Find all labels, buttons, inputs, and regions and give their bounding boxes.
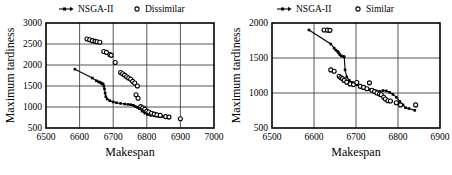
legend-label-nsga-ii: NSGA-II — [296, 4, 331, 14]
left-chart-svg: 6500660067006800690070005001000150020002… — [0, 0, 226, 175]
x-tick-label: 6500 — [37, 132, 56, 142]
legend-marker-similar — [356, 7, 360, 11]
data-point — [158, 113, 162, 117]
data-point — [123, 103, 126, 106]
data-point — [404, 106, 407, 109]
data-point — [113, 60, 117, 64]
y-tick-label: 2000 — [23, 60, 42, 70]
x-tick-label: 6500 — [263, 132, 282, 142]
y-axis-title: Maximum tardiness — [3, 27, 17, 123]
y-tick-label: 500 — [254, 123, 269, 133]
data-point — [109, 53, 113, 57]
data-point — [345, 76, 348, 79]
chart-panel-left: 6500660067006800690070005001000150020002… — [0, 0, 226, 175]
x-axis-title: Makespan — [105, 145, 154, 159]
y-tick-label: 1000 — [249, 88, 268, 98]
data-point — [167, 115, 171, 119]
y-tick-label: 1500 — [249, 53, 268, 63]
data-point — [392, 93, 395, 96]
x-tick-label: 6900 — [171, 132, 190, 142]
data-point — [119, 102, 122, 105]
x-tick-label: 6700 — [347, 132, 366, 142]
data-point — [178, 117, 182, 121]
data-point — [98, 40, 102, 44]
y-tick-label: 2500 — [23, 39, 42, 49]
legend-marker-nsga-ii — [281, 8, 284, 11]
data-point — [104, 92, 107, 95]
legend-arrow-icon — [70, 7, 74, 12]
legend-marker-nsga-ii — [63, 8, 66, 11]
series-line-nsga-ii — [309, 30, 415, 110]
x-tick-label: 6900 — [431, 132, 450, 142]
legend-label-similar: Similar — [366, 4, 395, 14]
data-point — [91, 77, 94, 80]
data-point — [344, 69, 347, 72]
data-point — [74, 68, 77, 71]
data-point — [394, 101, 398, 105]
plot-frame — [46, 23, 214, 128]
data-point — [135, 84, 139, 88]
y-tick-label: 1500 — [23, 81, 42, 91]
data-point — [385, 90, 388, 93]
data-point — [109, 99, 112, 102]
data-point — [414, 109, 417, 112]
data-point — [330, 43, 333, 46]
x-axis-title: Makespan — [331, 145, 380, 159]
legend-label-nsga-ii: NSGA-II — [78, 4, 113, 14]
data-point — [127, 103, 130, 106]
data-point — [367, 81, 371, 85]
y-tick-label: 1000 — [23, 102, 42, 112]
data-point — [103, 88, 106, 91]
data-point — [106, 98, 109, 101]
x-tick-label: 6600 — [70, 132, 89, 142]
data-point — [129, 103, 132, 106]
data-point — [136, 96, 140, 100]
data-point — [355, 81, 359, 85]
data-point — [308, 29, 311, 32]
figure-container: 6500660067006800690070005001000150020002… — [0, 0, 452, 175]
x-tick-label: 6600 — [305, 132, 324, 142]
data-point — [414, 103, 418, 107]
data-point — [115, 102, 118, 105]
chart-panel-right: 65006600670068006900500100015002000Makes… — [226, 0, 452, 175]
data-point — [388, 91, 391, 94]
data-point — [328, 28, 332, 32]
data-point — [102, 85, 105, 88]
data-point — [343, 55, 346, 58]
y-tick-label: 3000 — [23, 18, 42, 28]
data-point — [399, 103, 403, 107]
x-tick-label: 6800 — [137, 132, 156, 142]
data-point — [365, 87, 369, 91]
x-tick-label: 6700 — [104, 132, 123, 142]
series-line-nsga-ii — [75, 69, 170, 117]
x-tick-label: 7000 — [205, 132, 224, 142]
data-point — [112, 101, 115, 104]
legend-label-dissimilar: Dissimilar — [145, 4, 185, 14]
legend-marker-dissimilar — [135, 7, 139, 11]
data-point — [395, 96, 398, 99]
y-tick-label: 500 — [28, 123, 43, 133]
y-tick-label: 2000 — [249, 18, 268, 28]
y-axis-title: Maximum tardiness — [229, 27, 243, 123]
data-point — [382, 89, 385, 92]
legend-arrow-icon — [288, 7, 292, 12]
data-point — [105, 95, 108, 98]
data-point — [332, 69, 336, 73]
right-chart-svg: 65006600670068006900500100015002000Makes… — [226, 0, 452, 175]
x-tick-label: 6800 — [389, 132, 408, 142]
data-point — [408, 107, 411, 110]
data-point — [388, 99, 392, 103]
